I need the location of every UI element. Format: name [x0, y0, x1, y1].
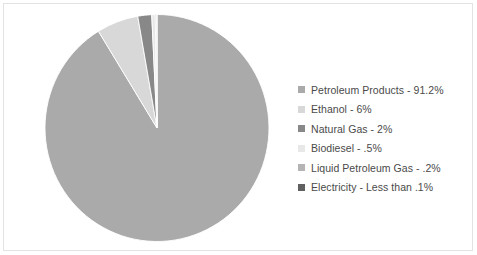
legend-item-label: Biodiesel - .5%: [311, 142, 382, 154]
chart-screenshot: Petroleum Products - 91.2%Ethanol - 6%Na…: [0, 0, 477, 255]
legend-item: Liquid Petroleum Gas - .2%: [298, 158, 470, 178]
legend-item-label: Ethanol - 6%: [311, 103, 372, 115]
legend-item: Natural Gas - 2%: [298, 119, 470, 139]
pie-slice-group: [45, 14, 269, 241]
legend-swatch-icon: [298, 164, 305, 171]
legend-item-label: Natural Gas - 2%: [311, 123, 392, 135]
legend-item: Biodiesel - .5%: [298, 139, 470, 159]
legend-swatch-icon: [298, 184, 305, 191]
chart-legend: Petroleum Products - 91.2%Ethanol - 6%Na…: [298, 80, 470, 197]
legend-swatch-icon: [298, 125, 305, 132]
legend-item: Ethanol - 6%: [298, 100, 470, 120]
legend-item-label: Liquid Petroleum Gas - .2%: [311, 162, 441, 174]
legend-item: Electricity - Less than .1%: [298, 178, 470, 198]
legend-swatch-icon: [298, 106, 305, 113]
pie-chart-svg: [44, 14, 270, 242]
pie-chart: [44, 14, 270, 242]
legend-item-label: Petroleum Products - 91.2%: [311, 84, 444, 96]
legend-swatch-icon: [298, 86, 305, 93]
legend-item-label: Electricity - Less than .1%: [311, 181, 433, 193]
legend-item: Petroleum Products - 91.2%: [298, 80, 470, 100]
legend-swatch-icon: [298, 145, 305, 152]
